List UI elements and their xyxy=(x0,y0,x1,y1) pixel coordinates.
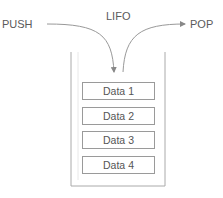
pop-arrow xyxy=(123,24,185,72)
stack-item: Data 4 xyxy=(82,156,155,174)
stack-item: Data 1 xyxy=(82,82,155,100)
stack-item: Data 2 xyxy=(82,107,155,125)
push-label: PUSH xyxy=(2,18,33,30)
lifo-title: LIFO xyxy=(106,10,130,22)
pop-label: POP xyxy=(190,18,213,30)
stack-item: Data 3 xyxy=(82,131,155,149)
push-arrow xyxy=(47,24,114,72)
